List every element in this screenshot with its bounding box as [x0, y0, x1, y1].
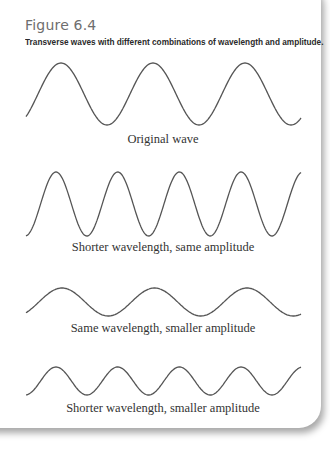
panel-label-original: Original wave — [0, 132, 326, 147]
waves-diagram — [0, 0, 330, 449]
wave-shorter-same-amplitude — [26, 172, 301, 236]
wave-same-smaller-amplitude — [26, 288, 301, 316]
panel-label-same-smaller: Same wavelength, smaller amplitude — [0, 321, 326, 336]
wave-shorter-smaller-amplitude — [26, 367, 301, 395]
panel-label-shorter-same: Shorter wavelength, same amplitude — [0, 240, 326, 255]
wave-original — [26, 63, 301, 125]
panel-label-shorter-smaller: Shorter wavelength, smaller amplitude — [0, 401, 326, 416]
